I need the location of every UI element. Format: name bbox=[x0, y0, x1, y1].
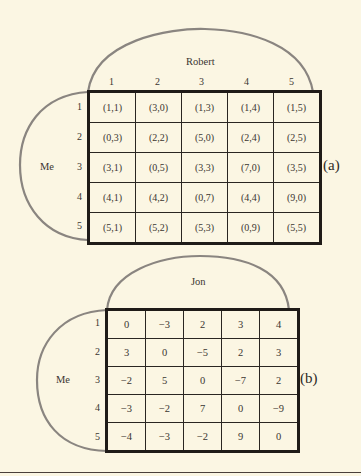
matrix-cell: −3 bbox=[107, 395, 146, 423]
matrix-cell: (5,3) bbox=[182, 213, 228, 244]
matrix-cell: 4 bbox=[260, 310, 299, 339]
row-label-b-4: 4 bbox=[95, 403, 100, 413]
matrix-cell: (3,3) bbox=[182, 153, 228, 183]
matrix-cell: (1,5) bbox=[274, 92, 321, 123]
column-player-label-b: Jon bbox=[191, 277, 206, 288]
column-label-a-2: 2 bbox=[155, 77, 160, 87]
matrix-cell: −9 bbox=[260, 395, 299, 423]
matrix-cell: (4,1) bbox=[89, 183, 136, 213]
matrix-cell: −2 bbox=[146, 395, 184, 423]
matrix-row: 3 0 −5 2 3 bbox=[107, 339, 299, 367]
matrix-row: −4 −3 −2 9 0 bbox=[107, 423, 299, 452]
matrix-cell: 7 bbox=[184, 395, 222, 423]
matrix-cell: −2 bbox=[107, 367, 146, 395]
matrix-cell: 0 bbox=[146, 339, 184, 367]
row-label-b-3: 3 bbox=[95, 375, 100, 385]
matrix-cell: (9,0) bbox=[274, 183, 321, 213]
matrix-cell: (0,9) bbox=[228, 213, 274, 244]
matrix-cell: 3 bbox=[107, 339, 146, 367]
matrix-cell: (5,1) bbox=[89, 213, 136, 244]
matrix-cell: 5 bbox=[146, 367, 184, 395]
row-label-a-2: 2 bbox=[77, 132, 82, 142]
matrix-cell: (4,2) bbox=[136, 183, 182, 213]
matrix-row: (4,1) (4,2) (0,7) (4,4) (9,0) bbox=[89, 183, 321, 213]
matrix-row: −3 −2 7 0 −9 bbox=[107, 395, 299, 423]
matrix-cell: 0 bbox=[107, 310, 146, 339]
matrix-cell: (3,1) bbox=[89, 153, 136, 183]
figure-tag-a: (a) bbox=[323, 158, 340, 173]
column-label-a-4: 4 bbox=[244, 77, 249, 87]
matrix-cell: 9 bbox=[222, 423, 260, 452]
matrix-row: (5,1) (5,2) (5,3) (0,9) (5,5) bbox=[89, 213, 321, 244]
matrix-cell: (3,5) bbox=[274, 153, 321, 183]
matrix-cell: (7,0) bbox=[228, 153, 274, 183]
matrix-cell: (4,4) bbox=[228, 183, 274, 213]
column-label-a-3: 3 bbox=[199, 77, 204, 87]
row-label-b-5: 5 bbox=[95, 432, 100, 442]
row-label-b-2: 2 bbox=[95, 347, 100, 357]
matrix-row: (3,1) (0,5) (3,3) (7,0) (3,5) bbox=[89, 153, 321, 183]
bottom-rule bbox=[0, 472, 361, 473]
row-label-a-4: 4 bbox=[77, 192, 82, 202]
matrix-row: (0,3) (2,2) (5,0) (2,4) (2,5) bbox=[89, 123, 321, 153]
matrix-cell: (5,2) bbox=[136, 213, 182, 244]
matrix-cell: (0,7) bbox=[182, 183, 228, 213]
matrix-cell: 3 bbox=[222, 310, 260, 339]
payoff-matrix-a: (1,1) (3,0) (1,3) (1,4) (1,5) (0,3) (2,2… bbox=[87, 90, 322, 245]
figure-tag-b: (b) bbox=[300, 371, 318, 386]
matrix-cell: 0 bbox=[260, 423, 299, 452]
matrix-cell: 0 bbox=[184, 367, 222, 395]
matrix-cell: 2 bbox=[222, 339, 260, 367]
matrix-cell: 2 bbox=[184, 310, 222, 339]
matrix-row: −2 5 0 −7 2 bbox=[107, 367, 299, 395]
matrix-cell: (5,0) bbox=[182, 123, 228, 153]
row-label-a-5: 5 bbox=[77, 221, 82, 231]
matrix-cell: −7 bbox=[222, 367, 260, 395]
matrix-cell: 3 bbox=[260, 339, 299, 367]
matrix-cell: −3 bbox=[146, 423, 184, 452]
matrix-cell: (0,5) bbox=[136, 153, 182, 183]
matrix-row: (1,1) (3,0) (1,3) (1,4) (1,5) bbox=[89, 92, 321, 123]
column-player-label-a: Robert bbox=[186, 57, 215, 68]
row-player-label-b: Me bbox=[56, 375, 70, 386]
payoff-matrix-b: 0 −3 2 3 4 3 0 −5 2 3 −2 5 0 −7 2 −3 −2 … bbox=[105, 308, 300, 453]
matrix-cell: (2,2) bbox=[136, 123, 182, 153]
matrix-cell: (2,5) bbox=[274, 123, 321, 153]
row-label-a-1: 1 bbox=[77, 102, 82, 112]
matrix-cell: −4 bbox=[107, 423, 146, 452]
matrix-cell: −2 bbox=[184, 423, 222, 452]
matrix-cell: 2 bbox=[260, 367, 299, 395]
matrix-cell: (0,3) bbox=[89, 123, 136, 153]
matrix-cell: 0 bbox=[222, 395, 260, 423]
matrix-cell: (2,4) bbox=[228, 123, 274, 153]
row-label-a-3: 3 bbox=[77, 162, 82, 172]
matrix-cell: (5,5) bbox=[274, 213, 321, 244]
row-label-b-1: 1 bbox=[95, 318, 100, 328]
row-player-label-a: Me bbox=[40, 162, 54, 173]
matrix-cell: (1,3) bbox=[182, 92, 228, 123]
matrix-cell: (3,0) bbox=[136, 92, 182, 123]
matrix-row: 0 −3 2 3 4 bbox=[107, 310, 299, 339]
matrix-cell: (1,1) bbox=[89, 92, 136, 123]
matrix-cell: (1,4) bbox=[228, 92, 274, 123]
column-label-a-5: 5 bbox=[289, 77, 294, 87]
matrix-cell: −3 bbox=[146, 310, 184, 339]
matrix-cell: −5 bbox=[184, 339, 222, 367]
column-label-a-1: 1 bbox=[109, 77, 114, 87]
